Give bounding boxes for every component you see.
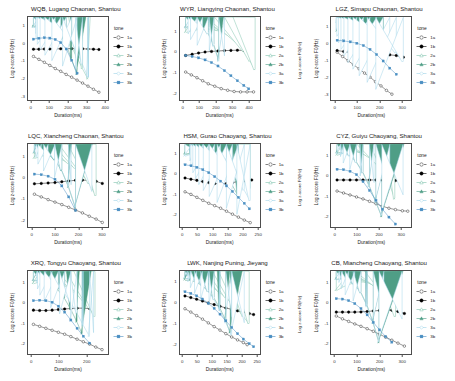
legend-item[interactable]: 1a — [113, 33, 151, 42]
legend-label: 1a — [429, 35, 435, 40]
y-tick-label: 0 — [326, 173, 328, 178]
x-tick-label: 300 — [98, 232, 105, 237]
x-tick-mark — [59, 355, 60, 357]
legend-label: 3b — [126, 80, 132, 85]
x-tick-mark — [212, 228, 213, 230]
x-tick-mark — [334, 228, 335, 230]
series-svg — [28, 17, 108, 100]
legend-item[interactable]: 2a — [416, 178, 454, 187]
legend-item[interactable]: 3a — [113, 69, 151, 78]
legend-label: 3b — [278, 80, 284, 85]
y-tick-labels: 10-1-2 — [12, 143, 25, 228]
legend-label: 1b — [126, 44, 132, 49]
plot-area — [179, 16, 261, 101]
legend-item[interactable]: 2b — [416, 60, 454, 69]
legend-item[interactable]: 1a — [416, 33, 454, 42]
legend-item[interactable]: 1a — [113, 160, 151, 169]
x-tick-mark — [55, 228, 56, 230]
x-tick-label: 400 — [102, 105, 109, 110]
y-tick-label: -2 — [324, 340, 328, 345]
legend-item[interactable]: 3b — [113, 78, 151, 87]
legend-key-3a-icon — [416, 69, 429, 78]
x-tick-label: 100 — [55, 359, 62, 364]
legend-item[interactable]: 2a — [113, 51, 151, 60]
x-axis-label: Duration(ms) — [27, 367, 109, 372]
series-svg — [331, 17, 411, 100]
x-tick-mark — [197, 355, 198, 357]
legend-item[interactable]: 2b — [113, 187, 151, 196]
legend-item[interactable]: 2b — [416, 187, 454, 196]
legend-title: tone — [113, 280, 151, 285]
chart-grid: WQB, Lugang Chaonan, ShantouLog z-score … — [0, 0, 455, 381]
legend-label: 2a — [126, 307, 132, 312]
x-tick-label: 0 — [182, 105, 184, 110]
legend-item[interactable]: 1a — [113, 287, 151, 296]
legend-item[interactable]: 1b — [416, 296, 454, 305]
y-tick-labels: 10-1-2 — [315, 270, 328, 355]
legend-key-2b-icon — [113, 60, 126, 69]
y-tick-label: 0 — [23, 40, 25, 45]
legend-item[interactable]: 3b — [416, 205, 454, 214]
legend-label: 3b — [429, 80, 435, 85]
y-tick-label: 0 — [326, 300, 328, 305]
plot-area — [27, 143, 109, 228]
x-tick-label: 0 — [334, 232, 336, 237]
y-tick-labels: 10-1-2-3 — [315, 16, 328, 101]
legend-label: 2b — [278, 189, 284, 194]
legend-item[interactable]: 3a — [113, 196, 151, 205]
legend-key-3a-icon — [265, 69, 278, 78]
chart-panel: CB, Miancheng Chaoyang, ShantouLog z-sco… — [303, 254, 455, 381]
legend-label: 3b — [126, 334, 132, 339]
legend-item[interactable]: 3a — [113, 323, 151, 332]
legend-key-1a-icon — [416, 33, 429, 42]
x-tick-mark — [182, 228, 183, 230]
legend-item[interactable]: 1a — [416, 287, 454, 296]
legend-key-3b-icon — [416, 78, 429, 87]
legend-item[interactable]: 1b — [416, 169, 454, 178]
legend-label: 1a — [429, 289, 435, 294]
legend-key-1a-icon — [113, 33, 126, 42]
legend-item[interactable]: 3a — [416, 323, 454, 332]
x-tick-mark — [227, 355, 228, 357]
legend-label: 1b — [278, 298, 284, 303]
x-tick-label: 200 — [83, 359, 90, 364]
legend-item[interactable]: 1a — [416, 160, 454, 169]
series-svg — [180, 17, 260, 100]
legend-item[interactable]: 2b — [113, 314, 151, 323]
legend-key-2b-icon — [416, 314, 429, 323]
legend-key-1b-icon — [416, 169, 429, 178]
legend-item[interactable]: 2b — [416, 314, 454, 323]
legend-item[interactable]: 3b — [113, 332, 151, 341]
x-axis-label: Duration(ms) — [179, 240, 261, 245]
legend-item[interactable]: 2a — [416, 51, 454, 60]
x-tick-label: 250 — [253, 359, 260, 364]
legend-label: 2a — [429, 307, 435, 312]
legend-item[interactable]: 1b — [113, 169, 151, 178]
legend-item[interactable]: 2a — [113, 178, 151, 187]
legend-item[interactable]: 2b — [113, 60, 151, 69]
legend-item[interactable]: 3b — [416, 332, 454, 341]
x-tick-labels: 0100200300 — [330, 101, 412, 113]
legend-item[interactable]: 3a — [416, 69, 454, 78]
x-tick-label: 300 — [229, 105, 236, 110]
legend-key-3a-icon — [265, 323, 278, 332]
legend-item[interactable]: 3b — [416, 78, 454, 87]
legend-item[interactable]: 3b — [113, 205, 151, 214]
legend-item[interactable]: 3a — [416, 196, 454, 205]
x-tick-mark — [49, 101, 50, 103]
legend-item[interactable]: 1b — [113, 42, 151, 51]
legend-item[interactable]: 2a — [416, 305, 454, 314]
legend-item[interactable]: 2a — [113, 305, 151, 314]
legend-item[interactable]: 1b — [416, 42, 454, 51]
legend-item[interactable]: 1b — [113, 296, 151, 305]
x-tick-label: 100 — [354, 105, 361, 110]
panel-title: LWK, Nanjing Puning, Jieyang — [152, 259, 304, 266]
x-tick-labels: 050100150200250 — [179, 355, 261, 367]
x-tick-mark — [357, 228, 358, 230]
legend-key-1b-icon — [265, 169, 278, 178]
legend-key-2b-icon — [416, 60, 429, 69]
legend-key-2b-icon — [113, 314, 126, 323]
legend-label: 3a — [126, 71, 132, 76]
x-tick-label: 200 — [239, 232, 246, 237]
legend-key-2a-icon — [113, 178, 126, 187]
